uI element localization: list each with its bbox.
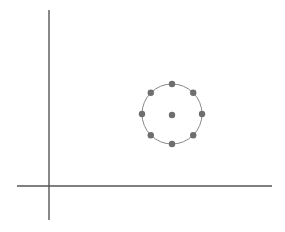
ring-point — [169, 81, 175, 87]
diagram-canvas — [0, 0, 285, 232]
ring-point — [169, 141, 175, 147]
center-point — [169, 112, 175, 118]
ring-point — [199, 111, 205, 117]
ring-point — [148, 90, 154, 96]
ring-point — [148, 132, 154, 138]
ring-point — [190, 90, 196, 96]
ring-point — [190, 132, 196, 138]
ring-point — [139, 111, 145, 117]
